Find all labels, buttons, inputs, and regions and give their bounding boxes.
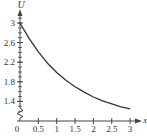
x-tick-label: 0	[15, 124, 20, 134]
y-axis-title: U	[17, 0, 25, 10]
y-tick-label: 1.4	[4, 96, 16, 106]
data-curve	[20, 23, 130, 109]
axis-break-zigzag-icon	[17, 108, 23, 121]
x-tick-label: 2.5	[106, 124, 118, 134]
x-tick-label: 1	[54, 124, 59, 134]
y-tick-label: 2.2	[4, 57, 15, 67]
series-line-u	[20, 23, 130, 109]
x-tick-label: 0.5	[33, 124, 45, 134]
x-tick-label: 3	[128, 124, 133, 134]
x-tick-label: 1.5	[69, 124, 81, 134]
x-axis-title: x	[142, 115, 147, 125]
y-tick-label: 2.6	[4, 38, 16, 48]
axis-labels: 32.62.21.81.400.511.522.53Ux	[4, 0, 147, 134]
chart: 32.62.21.81.400.511.522.53Ux	[0, 0, 147, 139]
y-tick-label: 1.8	[4, 77, 16, 87]
y-tick-label: 3	[11, 18, 16, 28]
y-axis-arrow-icon	[18, 9, 23, 16]
x-axis-arrow-icon	[135, 119, 142, 124]
x-tick-label: 2	[91, 124, 96, 134]
